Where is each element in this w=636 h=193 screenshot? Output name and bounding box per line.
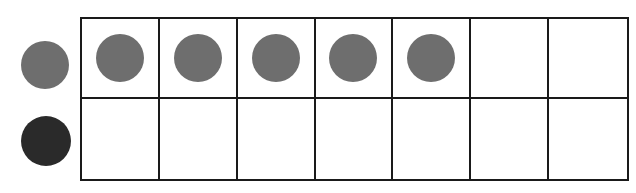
grid-cell <box>238 99 316 179</box>
legend-black-counter <box>21 116 71 166</box>
grid-cell <box>549 99 627 179</box>
counting-grid <box>80 17 629 181</box>
grid-cell <box>160 19 238 99</box>
grid-cell <box>471 99 549 179</box>
counter-dot <box>407 34 455 82</box>
grid-cell <box>238 19 316 99</box>
grid-cell <box>393 99 471 179</box>
counter-dot <box>252 34 300 82</box>
grid-cell <box>316 19 394 99</box>
grid-cell <box>471 19 549 99</box>
counter-dot <box>174 34 222 82</box>
counter-dot <box>329 34 377 82</box>
grid-cell <box>82 99 160 179</box>
grid-cell <box>82 19 160 99</box>
grid-cell <box>549 19 627 99</box>
legend-gray-counter <box>21 41 69 89</box>
counter-dot <box>96 34 144 82</box>
grid-cell <box>316 99 394 179</box>
grid-cell <box>160 99 238 179</box>
grid-cell <box>393 19 471 99</box>
